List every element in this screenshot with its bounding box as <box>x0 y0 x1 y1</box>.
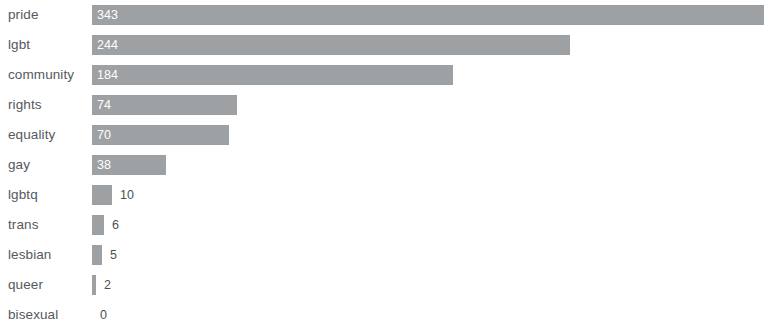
bar-row: lesbian5 <box>0 240 754 270</box>
bar-track: 2 <box>92 275 754 295</box>
bar-value-label: 6 <box>112 215 119 235</box>
bar-track: 184 <box>92 65 754 85</box>
bar-row: gay38 <box>0 150 754 180</box>
category-label: queer <box>8 270 43 300</box>
bar-track: 343 <box>92 5 754 25</box>
bar-track: 244 <box>92 35 754 55</box>
category-label: bisexual <box>8 300 58 330</box>
bar-row: bisexual0 <box>0 300 754 330</box>
bar-value-label: 5 <box>110 245 117 265</box>
bar[interactable] <box>92 35 570 55</box>
category-label: lesbian <box>8 240 51 270</box>
bar-row: pride343 <box>0 0 754 30</box>
category-label: trans <box>8 210 39 240</box>
bar-row: queer2 <box>0 270 754 300</box>
category-label: rights <box>8 90 42 120</box>
bar[interactable] <box>92 185 112 205</box>
bar[interactable] <box>92 5 764 25</box>
bar[interactable] <box>92 95 237 115</box>
bar-track: 74 <box>92 95 754 115</box>
bar-value-label: 0 <box>100 305 107 325</box>
bar[interactable] <box>92 65 453 85</box>
bar-row: lgbtq10 <box>0 180 754 210</box>
category-label: lgbtq <box>8 180 38 210</box>
bar[interactable] <box>92 215 104 235</box>
bar-track: 38 <box>92 155 754 175</box>
bar-row: equality70 <box>0 120 754 150</box>
bar-track: 70 <box>92 125 754 145</box>
bar-value-label: 184 <box>97 65 118 85</box>
category-label: lgbt <box>8 30 30 60</box>
bar-track: 0 <box>92 305 754 325</box>
bar[interactable] <box>92 275 96 295</box>
bar-row: community184 <box>0 60 754 90</box>
bar-value-label: 2 <box>104 275 111 295</box>
bar-row: rights74 <box>0 90 754 120</box>
category-label: community <box>8 60 74 90</box>
bar-row: trans6 <box>0 210 754 240</box>
bar[interactable] <box>92 245 102 265</box>
category-label: pride <box>8 0 39 30</box>
bar-value-label: 74 <box>97 95 111 115</box>
bar-track: 5 <box>92 245 754 265</box>
bar-row: lgbt244 <box>0 30 754 60</box>
bar-value-label: 244 <box>97 35 118 55</box>
bar-value-label: 70 <box>97 125 111 145</box>
category-label: gay <box>8 150 30 180</box>
bar[interactable] <box>92 125 229 145</box>
bar-value-label: 38 <box>97 155 111 175</box>
bar-track: 6 <box>92 215 754 235</box>
bar-value-label: 343 <box>97 5 118 25</box>
bar-track: 10 <box>92 185 754 205</box>
bar-value-label: 10 <box>120 185 134 205</box>
category-label: equality <box>8 120 55 150</box>
